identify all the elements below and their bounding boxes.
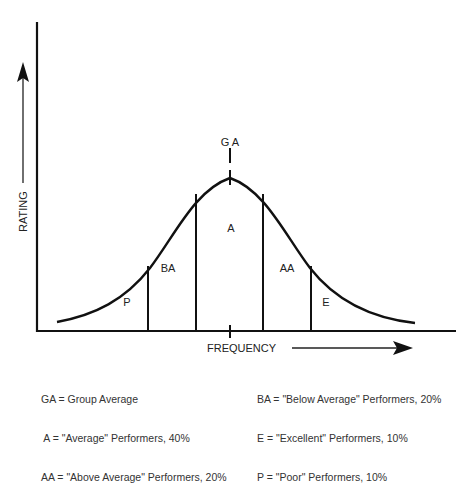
region-label-a: A bbox=[227, 222, 235, 234]
y-axis-label: RATING bbox=[17, 191, 29, 232]
legend-left: GA = Group Average A = "Average" Perform… bbox=[41, 367, 227, 487]
region-label-ba: BA bbox=[161, 262, 176, 274]
region-label-p: P bbox=[123, 296, 130, 308]
legend-item-e: E = "Excellent" Performers, 10% bbox=[257, 432, 441, 445]
legend-item-aa: AA = "Above Average" Performers, 20% bbox=[41, 471, 227, 484]
region-label-e: E bbox=[322, 296, 329, 308]
ga-label: G A bbox=[221, 136, 240, 148]
legend-item-p: P = "Poor" Performers, 10% bbox=[257, 471, 441, 484]
legend-item-a: A = "Average" Performers, 40% bbox=[41, 432, 227, 445]
legend-right: BA = "Below Average" Performers, 20% E =… bbox=[257, 367, 441, 487]
legend-item-ba: BA = "Below Average" Performers, 20% bbox=[257, 393, 441, 406]
region-label-aa: AA bbox=[280, 262, 295, 274]
x-axis-label: FREQUENCY bbox=[207, 342, 277, 354]
legend-item-ga: GA = Group Average bbox=[41, 393, 227, 406]
bell-curve bbox=[57, 178, 415, 323]
